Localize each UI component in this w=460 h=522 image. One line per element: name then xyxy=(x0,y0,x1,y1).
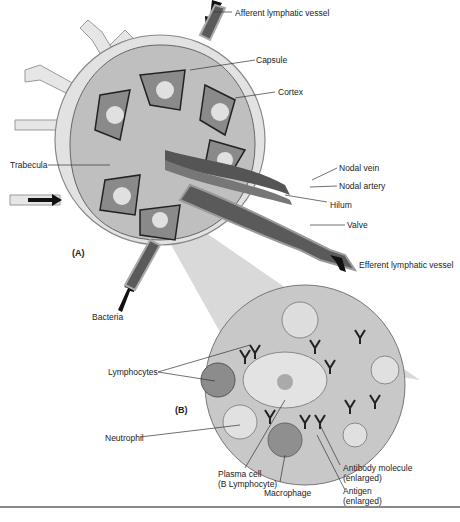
label-antibody-enlarged: (enlarged) xyxy=(343,473,382,483)
label-neutrophil: Neutrophil xyxy=(105,433,144,443)
label-hilum: Hilum xyxy=(330,200,352,210)
label-valve: Valve xyxy=(347,220,368,230)
label-antigen: Antigen xyxy=(343,486,372,496)
label-nodal-artery: Nodal artery xyxy=(339,181,385,191)
label-antibody-molecule: Antibody molecule xyxy=(343,463,412,473)
label-lymphocytes: Lymphocytes xyxy=(108,367,158,377)
label-efferent-lymphatic-vessel: Efferent lymphatic vessel xyxy=(359,260,453,270)
bottom-divider xyxy=(0,506,460,508)
label-afferent-lymphatic-vessel: Afferent lymphatic vessel xyxy=(235,8,329,18)
label-capsule: Capsule xyxy=(256,55,287,65)
label-antigen-enlarged: (enlarged) xyxy=(343,496,382,506)
label-trabecula: Trabecula xyxy=(10,160,47,170)
panel-label-a: (A) xyxy=(72,248,85,258)
label-bacteria: Bacteria xyxy=(92,312,123,322)
lymph-node xyxy=(10,0,355,312)
label-nodal-vein: Nodal vein xyxy=(339,163,379,173)
panel-label-b: (B) xyxy=(175,405,188,415)
label-cortex: Cortex xyxy=(278,87,303,97)
label-macrophage: Macrophage xyxy=(264,488,311,498)
label-plasma-cell: Plasma cell xyxy=(218,469,261,479)
